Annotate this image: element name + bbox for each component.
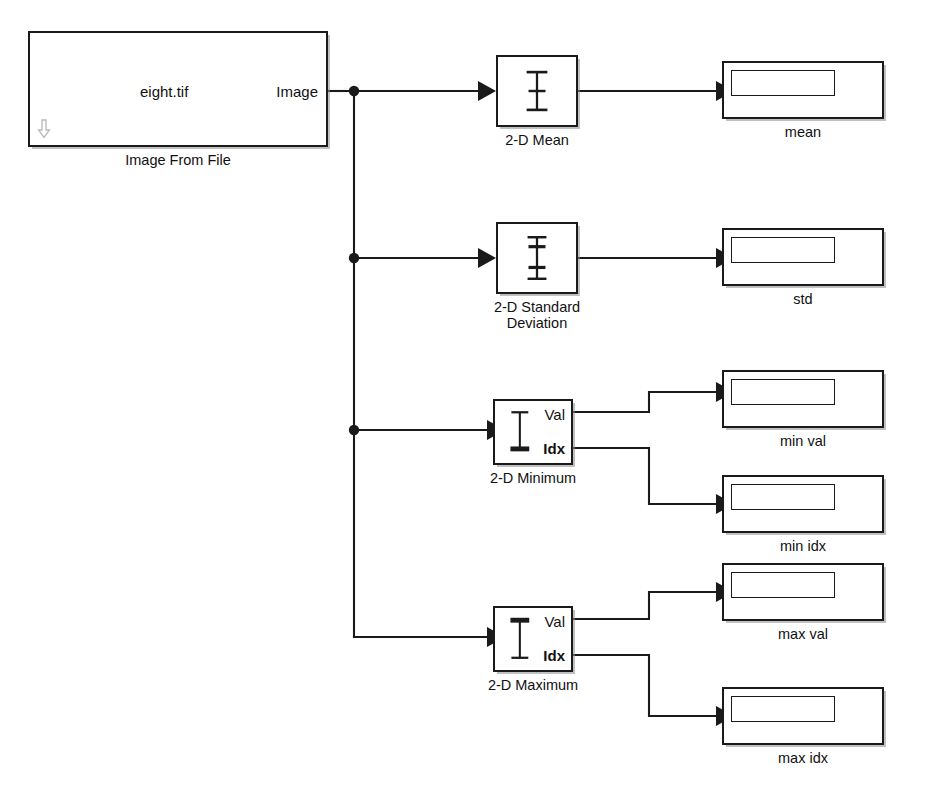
wire-max-val-to-display	[573, 592, 716, 619]
block-caption-2d-maximum: 2-D Maximum	[458, 677, 608, 693]
block-caption-2d-standard-deviation: 2-D Standard Deviation	[466, 299, 608, 331]
down-arrow-icon	[37, 119, 51, 139]
block-caption-image-from-file: Image From File	[28, 152, 328, 168]
block-2d-standard-deviation[interactable]	[496, 222, 578, 294]
display-value-max-idx[interactable]	[731, 696, 835, 722]
block-2d-minimum[interactable]: Val Idx	[493, 399, 573, 465]
display-block-mean[interactable]	[722, 61, 884, 119]
port-label-min-val: Val	[544, 406, 565, 423]
port-label-min-idx: Idx	[543, 440, 565, 457]
display-caption-mean: mean	[722, 124, 884, 140]
display-block-std[interactable]	[722, 228, 884, 286]
block-caption-2d-minimum: 2-D Minimum	[458, 470, 608, 486]
block-2d-mean[interactable]	[496, 55, 578, 127]
arrowhead-std-in	[478, 248, 496, 268]
display-caption-std: std	[722, 291, 884, 307]
display-value-max-val[interactable]	[731, 572, 835, 598]
display-value-std[interactable]	[731, 237, 835, 263]
display-value-min-idx[interactable]	[731, 484, 835, 510]
block-2d-maximum[interactable]: Val Idx	[493, 606, 573, 672]
port-label-max-val: Val	[544, 613, 565, 630]
arrowhead-mean-in	[478, 81, 496, 101]
display-caption-max-idx: max idx	[722, 750, 884, 766]
junction-dot-mean	[349, 86, 359, 96]
display-caption-max-val: max val	[722, 626, 884, 642]
simulink-canvas[interactable]: eight.tif Image Image From File 2-D Mean…	[0, 0, 938, 804]
display-value-min-val[interactable]	[731, 379, 835, 405]
block-caption-2d-mean: 2-D Mean	[466, 132, 608, 148]
junction-dot-min	[349, 425, 359, 435]
block-image-from-file[interactable]: eight.tif Image	[28, 31, 328, 147]
display-caption-min-val: min val	[722, 433, 884, 449]
display-block-min-val[interactable]	[722, 370, 884, 428]
wire-min-val-to-display	[573, 392, 716, 412]
junction-dot-std	[349, 253, 359, 263]
source-output-port-label: Image	[276, 83, 318, 100]
display-block-max-idx[interactable]	[722, 687, 884, 745]
display-block-min-idx[interactable]	[722, 475, 884, 533]
port-label-max-idx: Idx	[543, 647, 565, 664]
source-file-value: eight.tif	[140, 83, 188, 100]
display-block-max-val[interactable]	[722, 563, 884, 621]
display-value-mean[interactable]	[731, 70, 835, 96]
i-beam-plain-icon	[498, 57, 576, 125]
display-caption-min-idx: min idx	[722, 538, 884, 554]
i-beam-double-tick-icon	[498, 224, 576, 292]
